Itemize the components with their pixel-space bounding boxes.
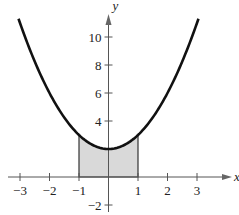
x-tick-label: −1 (72, 183, 86, 198)
y-tick-label: 4 (95, 114, 102, 129)
x-axis-arrow-icon (222, 174, 232, 180)
x-tick-label: 1 (135, 183, 142, 198)
y-axis-label: y (111, 0, 119, 13)
x-axis-label: x (233, 169, 239, 184)
x-tick-label: −3 (13, 183, 27, 198)
x-tick-label: 3 (194, 183, 201, 198)
y-axis-arrow-icon (106, 14, 112, 25)
y-tick-label: 8 (95, 58, 102, 73)
x-tick-label: −2 (43, 183, 57, 198)
y-tick-label: −2 (88, 198, 102, 213)
y-tick-label: 6 (95, 86, 102, 101)
y-tick-label: 10 (89, 30, 102, 45)
tick-labels: −3−2−1123−246810xy (13, 0, 239, 213)
graph: −3−2−1123−246810xy (0, 0, 239, 215)
x-tick-label: 2 (164, 183, 171, 198)
